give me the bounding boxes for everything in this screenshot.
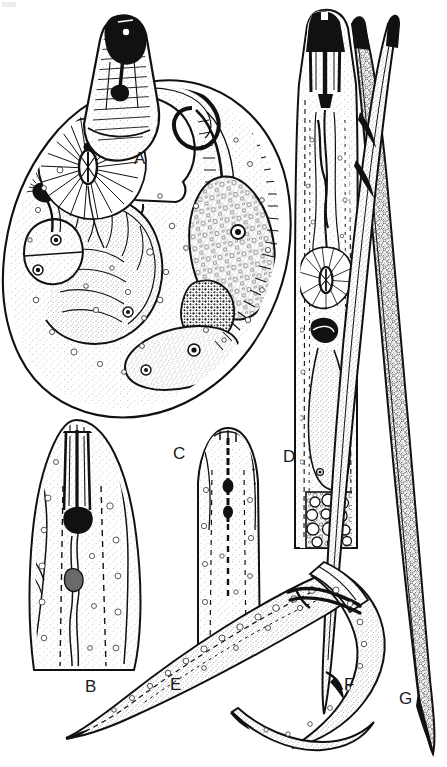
panel-label-E: E: [170, 676, 182, 693]
panel-label-D: D: [283, 448, 296, 465]
panel-label-G: G: [399, 690, 413, 707]
figure-plate: A B C D E F G: [0, 0, 447, 767]
panel-label-B: B: [85, 678, 97, 695]
female-neck: [84, 15, 160, 160]
panel-B-stylet-knobs: [63, 507, 93, 534]
panel-D-oral-aperture: [321, 12, 328, 20]
head-capsule: [106, 15, 146, 63]
panel-C-stylet-knob-1: [223, 479, 234, 493]
head-lumen-aperture: [123, 29, 129, 35]
nucleolus-lower: [191, 347, 196, 352]
panel-B-head-stylet-detail: [17, 415, 150, 675]
panel-G-head: [352, 16, 370, 50]
panel-B-gland-orifice: [64, 569, 83, 592]
panel-A-female-body: [0, 15, 300, 430]
nucleolus-right: [235, 229, 241, 235]
panel-label-A: A: [134, 150, 146, 167]
panel-label-C: C: [173, 445, 186, 462]
panel-label-F: F: [344, 676, 355, 693]
companion-head: [386, 15, 400, 48]
nematode-illustration: [0, 0, 447, 767]
scan-artifact-mark: [2, 2, 16, 7]
panel-C-stylet-knob-2: [223, 506, 233, 519]
